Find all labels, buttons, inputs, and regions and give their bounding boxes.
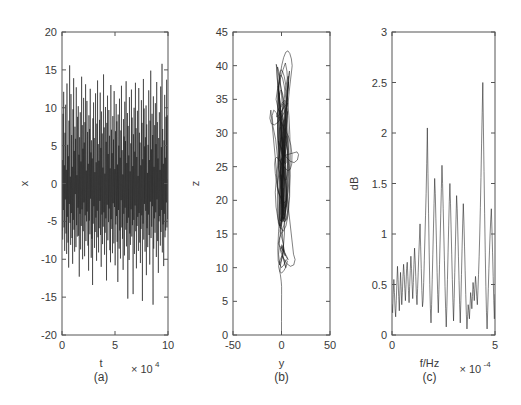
panel-label-a: (a) <box>94 370 109 384</box>
y-tick-label: 35 <box>216 93 228 105</box>
y-tick-label: 10 <box>45 102 57 114</box>
y-tick-label: 3 <box>381 26 387 38</box>
plot-traces-c <box>392 83 495 329</box>
x-tick-label: 5 <box>492 339 498 351</box>
panel-c: 00.511.522.5305dBf/Hz(c)× 10-4 <box>348 26 498 384</box>
plot-traces-a <box>62 64 168 305</box>
panel-label-b: (b) <box>274 370 289 384</box>
plot-traces-b <box>270 51 299 335</box>
x-tick-label: 0 <box>59 339 65 351</box>
x-tick-label: 10 <box>162 339 174 351</box>
x-axis-label-c: f/Hz <box>420 357 440 369</box>
data-trace-c <box>392 83 495 329</box>
y-tick-label: 5 <box>222 295 228 307</box>
x-tick-label: 0 <box>389 339 395 351</box>
y-axis-label-c: dB <box>348 177 360 190</box>
y-tick-label: -15 <box>41 291 57 303</box>
x-tick-label: -50 <box>225 339 241 351</box>
y-tick-label: 1 <box>381 228 387 240</box>
panel-b: 051015202530354045-50050zy(b) <box>189 26 336 384</box>
x-tick-label: 0 <box>278 339 284 351</box>
x-exponent-base-a: × 10 <box>131 363 153 375</box>
x-tick-label: 5 <box>112 339 118 351</box>
y-tick-label: 25 <box>216 161 228 173</box>
y-tick-label: 0.5 <box>372 279 387 291</box>
y-tick-label: 5 <box>51 140 57 152</box>
y-tick-label: 15 <box>216 228 228 240</box>
y-tick-label: 10 <box>216 262 228 274</box>
figure-container: -20-15-10-5051015200510xt(a)× 1040510152… <box>0 0 521 405</box>
y-tick-label: 30 <box>216 127 228 139</box>
y-tick-label: 1.5 <box>372 178 387 190</box>
y-axis-label-b: z <box>189 181 201 187</box>
y-tick-label: 15 <box>45 64 57 76</box>
y-tick-label: 0 <box>51 178 57 190</box>
x-exponent-power-c: -4 <box>484 360 492 369</box>
axes-box-c <box>392 32 495 335</box>
y-tick-label: -5 <box>47 215 57 227</box>
three-panel-figure: -20-15-10-5051015200510xt(a)× 1040510152… <box>0 0 521 405</box>
x-axis-label-a: t <box>99 357 102 369</box>
panel-label-c: (c) <box>423 370 437 384</box>
y-tick-label: 2 <box>381 127 387 139</box>
y-tick-label: 20 <box>45 26 57 38</box>
y-tick-label: -20 <box>41 329 57 341</box>
x-exponent-power-a: 4 <box>155 360 160 369</box>
x-axis-label-b: y <box>279 357 285 369</box>
y-tick-label: -10 <box>41 253 57 265</box>
x-exponent-base-c: × 10 <box>460 363 482 375</box>
y-tick-label: 40 <box>216 60 228 72</box>
panel-a: -20-15-10-5051015200510xt(a)× 104 <box>18 26 174 384</box>
y-tick-label: 45 <box>216 26 228 38</box>
y-axis-label-a: x <box>18 180 30 186</box>
y-tick-label: 0 <box>381 329 387 341</box>
x-tick-label: 50 <box>324 339 336 351</box>
y-tick-label: 20 <box>216 194 228 206</box>
data-trace-a <box>62 64 168 305</box>
y-tick-label: 2.5 <box>372 77 387 89</box>
